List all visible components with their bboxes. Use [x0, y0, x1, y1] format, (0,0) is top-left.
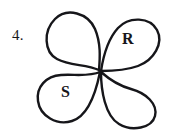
petal-label-r: R: [122, 31, 134, 47]
problem-number-label: 4.: [12, 28, 24, 43]
figure-page: 4. R S: [0, 0, 174, 137]
four-petal-clover-figure: [0, 0, 174, 137]
petal-label-s: S: [61, 84, 70, 100]
center-cusp-joins: [99, 70, 101, 72]
